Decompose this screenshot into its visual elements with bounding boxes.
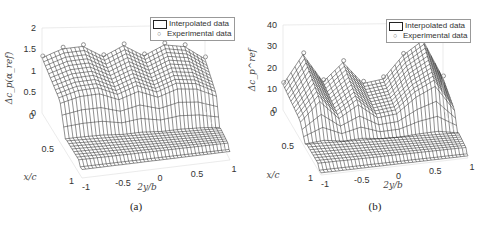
axis-line [205, 110, 230, 160]
zlabel-b: Δc_p^ref [247, 47, 258, 92]
mesh-line-spanwise [185, 47, 212, 154]
z-tick-label: 10 [267, 84, 277, 94]
y-tick-label: 0.5 [41, 144, 54, 154]
y-tick-label: 1 [308, 173, 313, 183]
mesh-line-chordwise [47, 56, 208, 69]
surface-swatch-icon [389, 22, 403, 31]
circle-marker-icon: ○ [389, 31, 401, 41]
surface-swatch-icon [153, 20, 167, 29]
z-tick-label: 40 [267, 20, 277, 30]
experimental-point [442, 74, 446, 78]
caption-a: (a) [116, 200, 156, 212]
caption-b: (b) [355, 200, 395, 212]
circle-marker-icon: ○ [153, 29, 165, 39]
z-tick-label: 0.5 [23, 87, 36, 97]
x-tick-label: 0.5 [191, 169, 204, 179]
experimental-point [81, 43, 85, 47]
mesh-line-chordwise [44, 49, 206, 63]
experimental-point [183, 43, 187, 47]
legend-entry: ○Experimental data [153, 29, 231, 39]
legend-label: Interpolated data [405, 21, 465, 31]
z-tick-label: 1.5 [23, 44, 36, 54]
y-tick-label: 0.5 [281, 141, 294, 151]
experimental-point [163, 41, 167, 45]
ylabel-a: x/c [23, 172, 36, 182]
x-tick-label: -0.5 [354, 175, 370, 185]
mesh-line-spanwise [181, 46, 208, 154]
xlabel-a: 2y/b [136, 182, 157, 192]
legend-b: Interpolated data ○Experimental data [386, 19, 471, 43]
chart-panel-a: 00.511.52-1-0.500.5100.51 Δc_p(α_ref) 2y… [0, 0, 243, 225]
experimental-point [302, 51, 306, 55]
experimental-point [362, 79, 366, 83]
ticks-a: 00.511.52-1-0.500.5100.51 [23, 23, 236, 192]
x-tick-label: -1 [321, 179, 329, 189]
x-tick-label: 1 [469, 162, 474, 172]
legend-a: Interpolated data ○Experimental data [150, 17, 235, 41]
legend-label: Experimental data [167, 29, 231, 39]
legend-label: Experimental data [403, 31, 467, 41]
y-tick-label: 0 [270, 108, 275, 118]
z-tick-label: 30 [267, 41, 277, 51]
y-tick-label: 0 [29, 111, 34, 121]
x-tick-label: 1 [231, 164, 236, 174]
x-tick-label: -0.5 [115, 178, 131, 188]
axis-line [82, 160, 230, 178]
y-tick-label: 1 [69, 176, 74, 186]
mesh-b [282, 36, 468, 172]
x-tick-label: -1 [82, 182, 90, 192]
z-tick-label: 20 [267, 63, 277, 73]
mesh-line-spanwise [411, 49, 439, 159]
xlabel-b: 2y/b [382, 180, 403, 190]
legend-entry: Interpolated data [389, 21, 467, 31]
x-tick-label: 0 [157, 173, 162, 183]
experimental-point [282, 80, 286, 84]
x-tick-label: 0 [396, 171, 401, 181]
ylabel-b: x/c [266, 170, 279, 180]
z-tick-label: 1 [31, 66, 36, 76]
legend-label: Interpolated data [169, 19, 229, 29]
mesh-line-spanwise [83, 46, 119, 165]
x-tick-label: 0.5 [429, 166, 442, 176]
chart-panel-b: 010203040-1-0.500.5100.51 Δc_p^ref 2y/b … [243, 0, 486, 225]
mesh-line-spanwise [148, 54, 178, 158]
experimental-point [342, 59, 346, 63]
zlabel-a: Δc_p(α_ref) [4, 51, 15, 105]
mesh-line-chordwise [283, 40, 443, 84]
experimental-point [204, 55, 208, 59]
experimental-point [122, 42, 126, 46]
mesh-a [41, 41, 230, 169]
mesh-line-spanwise [347, 67, 380, 166]
legend-entry: ○Experimental data [389, 31, 467, 41]
mesh-line-chordwise [288, 52, 446, 94]
legend-entry: Interpolated data [153, 19, 231, 29]
z-tick-label: 2 [31, 23, 36, 33]
mesh-line-chordwise [291, 60, 448, 101]
